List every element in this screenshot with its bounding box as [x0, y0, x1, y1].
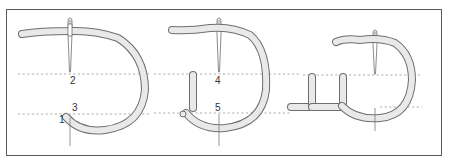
- stitch-diagram: 2 3 1 4 5: [0, 0, 462, 165]
- panel-step-1: 2 3 1: [22, 18, 145, 146]
- label-3: 3: [72, 102, 78, 113]
- thread: [22, 31, 145, 131]
- label-4: 4: [215, 75, 221, 86]
- label-1: 1: [59, 114, 65, 125]
- label-2: 2: [70, 75, 76, 86]
- previous-stitches: [291, 77, 343, 107]
- panel-step-2: 4 5: [172, 18, 266, 146]
- label-5: 5: [215, 102, 221, 113]
- panel-step-3: [291, 30, 412, 131]
